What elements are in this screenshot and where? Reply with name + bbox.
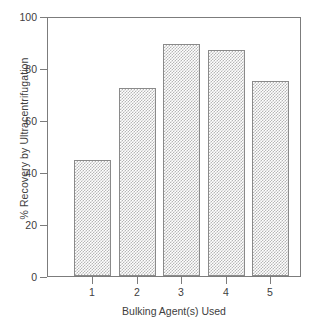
y-tick-mark-40	[40, 173, 47, 174]
x-tick-mark-3	[181, 277, 182, 284]
y-tick-label-20: 20	[0, 220, 37, 230]
bar-category-5	[252, 81, 289, 276]
x-axis-title: Bulking Agent(s) Used	[47, 305, 301, 318]
x-tick-mark-5	[270, 277, 271, 284]
bars-layer	[48, 18, 300, 276]
bar-category-1	[74, 160, 111, 276]
y-tick-label-40: 40	[0, 168, 37, 178]
x-tick-mark-2	[137, 277, 138, 284]
x-tick-label-3: 3	[169, 286, 193, 298]
x-tick-mark-1	[92, 277, 93, 284]
y-tick-label-60: 60	[0, 116, 37, 126]
plot-area	[47, 17, 301, 277]
y-tick-label-100: 100	[0, 12, 37, 22]
y-axis-title: % Recovery by Ultracentrifugation	[16, 0, 32, 277]
x-tick-label-2: 2	[125, 286, 149, 298]
y-tick-mark-100	[40, 17, 47, 18]
y-tick-mark-20	[40, 225, 47, 226]
y-tick-label-80: 80	[0, 64, 37, 74]
bar-chart-figure: % Recovery by Ultracentrifugation 100 80…	[0, 0, 313, 331]
bar-category-3	[163, 44, 200, 276]
y-tick-mark-0	[40, 277, 47, 278]
bar-category-4	[208, 50, 245, 276]
y-tick-mark-80	[40, 69, 47, 70]
x-tick-label-1: 1	[80, 286, 104, 298]
y-tick-label-0: 0	[0, 272, 37, 282]
x-tick-label-5: 5	[258, 286, 282, 298]
bar-category-2	[119, 88, 156, 276]
y-tick-mark-60	[40, 121, 47, 122]
x-tick-mark-4	[226, 277, 227, 284]
x-tick-label-4: 4	[214, 286, 238, 298]
